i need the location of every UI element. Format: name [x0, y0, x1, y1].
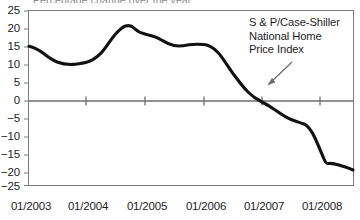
- chart-figure: Percentage change over the year: [0, 0, 360, 220]
- y-tick-label-25: 25: [0, 4, 20, 16]
- y-tick-label-neg25: −25: [0, 180, 20, 192]
- y-tick-label-neg15: −15: [0, 148, 20, 160]
- y-tick-label-15: 15: [0, 40, 20, 52]
- x-tick-label-2005: 01/2005: [119, 200, 175, 212]
- x-tick-label-2003: 01/2003: [3, 200, 59, 212]
- y-tick-label-20: 20: [0, 22, 20, 34]
- y-tick-label-0: 0: [0, 94, 20, 106]
- series-annotation-label: S & P/Case-Shiller National Home Price I…: [249, 16, 340, 57]
- y-tick-label-neg5: −5: [0, 112, 20, 124]
- y-axis-ticks: [24, 11, 29, 186]
- y-tick-label-neg20: −20: [0, 166, 20, 178]
- annotation-line-3: Price Index: [249, 43, 340, 57]
- x-tick-label-2006: 01/2006: [178, 200, 234, 212]
- x-tick-label-2004: 01/2004: [60, 200, 116, 212]
- annotation-line-1: S & P/Case-Shiller: [249, 16, 340, 30]
- x-tick-label-2007: 01/2007: [236, 200, 292, 212]
- annotation-line-2: National Home: [249, 30, 340, 44]
- y-tick-label-neg10: −10: [0, 130, 20, 142]
- y-tick-label-10: 10: [0, 58, 20, 70]
- x-tick-label-2008: 01/2008: [294, 200, 350, 212]
- y-tick-label-5: 5: [0, 76, 20, 88]
- annotation-arrow-icon: [269, 62, 293, 85]
